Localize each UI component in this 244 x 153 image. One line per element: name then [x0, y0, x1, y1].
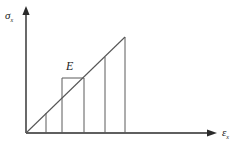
y-axis-label: σx [5, 10, 13, 23]
x-axis-label: εx [222, 127, 229, 140]
stress-strain-figure: σx εx E [0, 0, 244, 153]
y-axis-subscript: x [10, 17, 13, 23]
diagram-canvas [0, 0, 244, 153]
elastic-slope-line [26, 37, 125, 133]
modulus-label: E [66, 60, 73, 72]
x-axis-arrow-icon [207, 129, 217, 136]
x-axis-subscript: x [226, 134, 229, 140]
y-axis-arrow-icon [22, 6, 29, 15]
